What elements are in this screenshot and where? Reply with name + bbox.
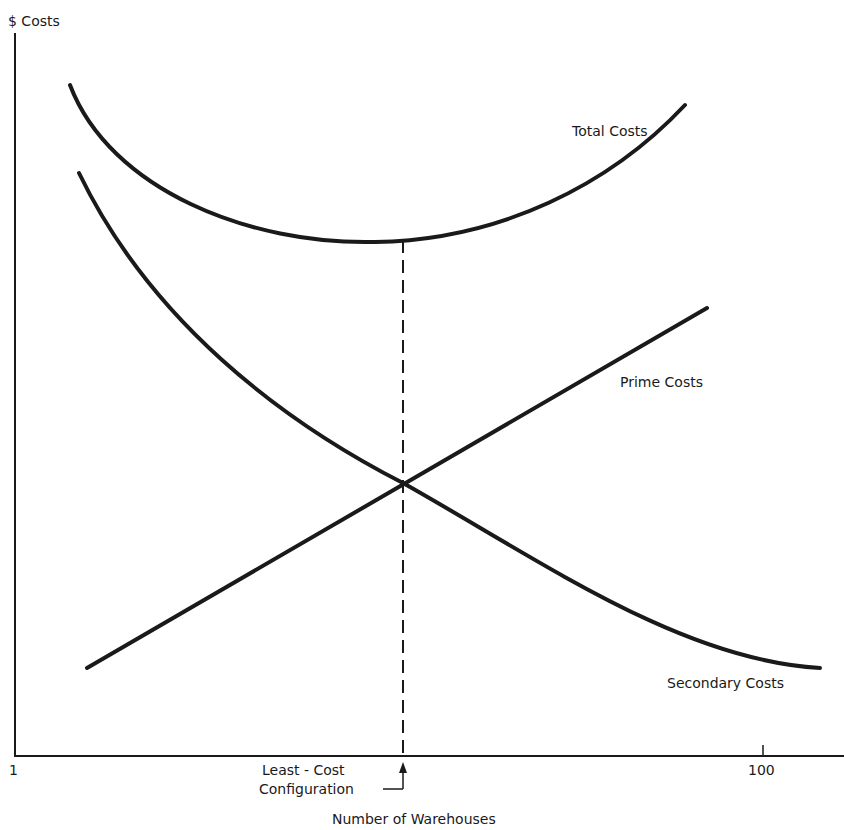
x-tick-label-100: 100 (748, 762, 775, 778)
least-cost-label-line2: Configuration (259, 781, 354, 797)
total-costs-curve (70, 85, 685, 242)
x-axis-label: Number of Warehouses (332, 811, 496, 827)
y-axis-label: $ Costs (8, 13, 60, 29)
prime-costs-label: Prime Costs (620, 374, 703, 390)
x-tick-label-1: 1 (9, 762, 18, 778)
secondary-costs-label: Secondary Costs (667, 675, 784, 691)
chart-canvas (0, 0, 844, 830)
arrow-up-icon (399, 762, 407, 773)
secondary-costs-curve (79, 173, 820, 668)
prime-costs-line (87, 308, 707, 668)
least-cost-label-line1: Least - Cost (262, 762, 345, 778)
total-costs-label: Total Costs (572, 123, 648, 139)
